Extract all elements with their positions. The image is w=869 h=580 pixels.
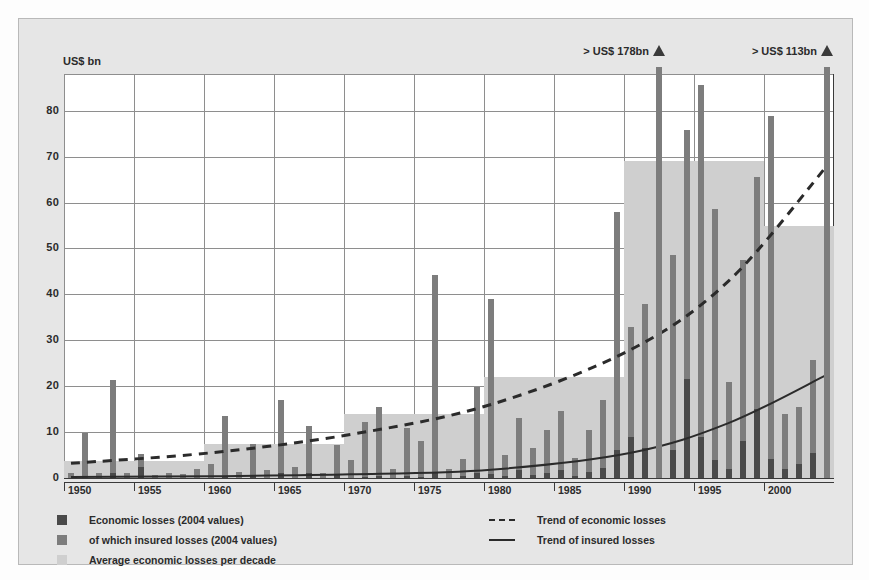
x-tick-mark-1965 xyxy=(274,482,275,491)
x-tick-mark-2000 xyxy=(764,482,765,491)
x-tick-mark-1955 xyxy=(134,482,135,491)
axis-bottom xyxy=(64,482,834,483)
x-tick-mark-1995 xyxy=(694,482,695,491)
legend-item-2: of which insured losses (2004 values) xyxy=(57,531,277,549)
x-tick-mark-1960 xyxy=(204,482,205,491)
x-tick-1990: 1990 xyxy=(628,484,651,496)
legend-swatch-icon xyxy=(57,535,67,545)
chart-panel: US$ bn 01020304050607080 > US$ 178bn> US… xyxy=(18,18,853,565)
legend-item-1: Economic losses (2004 values) xyxy=(57,511,244,529)
legend-label: Economic losses (2004 values) xyxy=(89,514,244,526)
legend-item-4: Trend of economic losses xyxy=(489,511,666,529)
y-tick-50: 50 xyxy=(25,241,59,253)
trend-lines xyxy=(64,74,834,478)
x-tick-mark-1950 xyxy=(64,482,65,491)
y-tick-20: 20 xyxy=(25,379,59,391)
x-tick-1970: 1970 xyxy=(348,484,371,496)
x-tick-1955: 1955 xyxy=(138,484,161,496)
y-tick-60: 60 xyxy=(25,196,59,208)
x-tick-1995: 1995 xyxy=(698,484,721,496)
trend-line-economic xyxy=(71,166,827,464)
x-tick-2000: 2000 xyxy=(768,484,791,496)
gridline-h-0 xyxy=(64,478,834,479)
x-tick-1980: 1980 xyxy=(488,484,511,496)
x-tick-mark-1975 xyxy=(414,482,415,491)
x-tick-mark-1980 xyxy=(484,482,485,491)
y-tick-10: 10 xyxy=(25,425,59,437)
legend-label: Trend of insured losses xyxy=(537,534,655,546)
y-axis-unit-label: US$ bn xyxy=(63,55,101,67)
y-tick-0: 0 xyxy=(25,471,59,483)
x-tick-1950: 1950 xyxy=(68,484,91,496)
overflow-bar-1992 xyxy=(656,67,662,478)
annotation-2004: > US$ 113bn xyxy=(752,45,817,57)
x-tick-1985: 1985 xyxy=(558,484,581,496)
legend-swatch-icon xyxy=(57,515,67,525)
x-tick-mark-1990 xyxy=(624,482,625,491)
legend-swatch-icon xyxy=(57,555,67,565)
legend-line-icon xyxy=(489,515,515,525)
x-tick-mark-1970 xyxy=(344,482,345,491)
chart-legend: Economic losses (2004 values)of which in… xyxy=(49,511,839,573)
legend-item-3: Average economic losses per decade xyxy=(57,551,276,569)
legend-label: Average economic losses per decade xyxy=(89,554,276,566)
y-tick-30: 30 xyxy=(25,333,59,345)
arrow-up-icon-2004 xyxy=(821,45,833,56)
arrow-up-icon-1992 xyxy=(653,45,665,56)
x-tick-1965: 1965 xyxy=(278,484,301,496)
legend-label: of which insured losses (2004 values) xyxy=(89,534,277,546)
x-tick-1960: 1960 xyxy=(208,484,231,496)
overflow-bar-2004 xyxy=(824,67,830,478)
y-tick-70: 70 xyxy=(25,150,59,162)
chart-screenshot: US$ bn 01020304050607080 > US$ 178bn> US… xyxy=(0,0,869,580)
x-tick-1975: 1975 xyxy=(418,484,441,496)
legend-item-5: Trend of insured losses xyxy=(489,531,655,549)
y-axis-tick-labels: 01020304050607080 xyxy=(19,74,59,478)
x-tick-mark-1985 xyxy=(554,482,555,491)
y-tick-80: 80 xyxy=(25,104,59,116)
trend-line-insured xyxy=(71,375,827,477)
annotation-1992: > US$ 178bn xyxy=(583,45,649,57)
plot-area xyxy=(64,74,834,478)
legend-line-icon xyxy=(489,535,515,545)
legend-label: Trend of economic losses xyxy=(537,514,666,526)
y-tick-40: 40 xyxy=(25,287,59,299)
